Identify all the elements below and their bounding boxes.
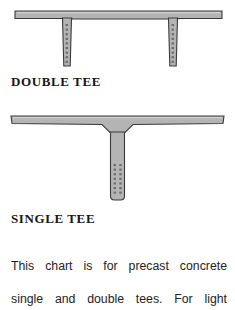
body-text-line-2: single and double tees. For light: [11, 291, 227, 310]
double-tee-caption: DOUBLE TEE: [11, 74, 101, 90]
single-tee-flange: [11, 116, 224, 133]
body-text-line-1: This chart is for precast concrete: [11, 258, 227, 291]
double-tee-svg: [0, 2, 235, 72]
single-tee-diagram: [0, 108, 235, 208]
single-tee-svg: [0, 108, 235, 208]
body-text-block: This chart is for precast concrete singl…: [11, 258, 227, 310]
single-tee-stem: [111, 132, 125, 200]
double-tee-right-strand-dots: [172, 24, 174, 63]
double-tee-left-strand-dots: [66, 24, 68, 63]
double-tee-diagram: [0, 2, 235, 72]
single-tee-caption: SINGLE TEE: [11, 211, 95, 227]
